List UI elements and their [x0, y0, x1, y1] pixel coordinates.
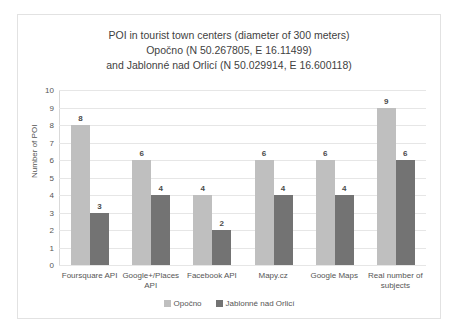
bar[interactable]: 9 — [377, 108, 396, 266]
legend-swatch — [164, 300, 171, 307]
y-axis-tick-label: 9 — [50, 103, 54, 112]
plot-area: 012345678910 83Foursquare API64Google+/P… — [59, 90, 426, 265]
chart-title-line-1: POI in tourist town centers (diameter of… — [18, 28, 440, 43]
bar-group: 83Foursquare API — [59, 90, 120, 265]
bar[interactable]: 8 — [71, 125, 90, 265]
bar-value-label: 6 — [403, 149, 407, 158]
bar[interactable]: 4 — [193, 195, 212, 265]
legend-label: Opočno — [174, 299, 202, 308]
bar-group: 42Facebook API — [181, 90, 242, 265]
bar-value-label: 6 — [139, 149, 143, 158]
legend-swatch — [216, 300, 223, 307]
x-axis-category-label: Google Maps — [302, 271, 366, 281]
bar-value-label: 2 — [220, 219, 224, 228]
bar[interactable]: 4 — [335, 195, 354, 265]
bar-value-label: 6 — [262, 149, 266, 158]
bar-value-label: 8 — [78, 114, 82, 123]
x-axis-category-label: Foursquare API — [58, 271, 122, 281]
x-axis-category-label: Google+/Places API — [119, 271, 183, 291]
legend-label: Jablonné nad Orlicí — [226, 299, 295, 308]
bar-value-label: 3 — [97, 202, 101, 211]
bar-value-label: 6 — [323, 149, 327, 158]
bar-group: 64Google+/Places API — [120, 90, 181, 265]
bar[interactable]: 2 — [212, 230, 231, 265]
bar-group: 64Mapy.cz — [243, 90, 304, 265]
bar-value-label: 4 — [281, 184, 285, 193]
y-axis-tick-label: 3 — [50, 208, 54, 217]
bar[interactable]: 3 — [90, 213, 109, 266]
bar[interactable]: 6 — [255, 160, 274, 265]
y-axis-tick-label: 6 — [50, 156, 54, 165]
bar[interactable]: 4 — [274, 195, 293, 265]
bar[interactable]: 6 — [396, 160, 415, 265]
bar[interactable]: 6 — [132, 160, 151, 265]
y-axis-tick-label: 0 — [50, 261, 54, 270]
bar-value-label: 4 — [158, 184, 162, 193]
bar-value-label: 4 — [342, 184, 346, 193]
y-axis-tick-label: 7 — [50, 138, 54, 147]
y-axis-tick-label: 10 — [45, 86, 54, 95]
legend-item[interactable]: Jablonné nad Orlicí — [216, 299, 295, 308]
y-axis-title: Number of POI — [30, 125, 39, 178]
gridline — [59, 265, 426, 266]
chart-legend: OpočnoJablonné nad Orlicí — [18, 299, 440, 308]
x-axis-category-label: Facebook API — [180, 271, 244, 281]
y-axis-tick-label: 8 — [50, 121, 54, 130]
bar-group: 96Real number of subjects — [365, 90, 426, 265]
bar-value-label: 9 — [384, 97, 388, 106]
x-axis-category-label: Mapy.cz — [241, 271, 305, 281]
x-axis-category-label: Real number of subjects — [363, 271, 427, 291]
bar[interactable]: 4 — [151, 195, 170, 265]
bar[interactable]: 6 — [316, 160, 335, 265]
y-axis-tick-label: 4 — [50, 191, 54, 200]
legend-item[interactable]: Opočno — [164, 299, 202, 308]
chart-title: POI in tourist town centers (diameter of… — [18, 28, 440, 73]
y-axis-tick-label: 1 — [50, 243, 54, 252]
bar-value-label: 4 — [201, 184, 205, 193]
y-axis-tick-label: 2 — [50, 226, 54, 235]
chart-title-line-3: and Jablonné nad Orlicí (N 50.029914, E … — [18, 58, 440, 73]
chart-container: POI in tourist town centers (diameter of… — [17, 14, 441, 319]
y-axis-tick-label: 5 — [50, 173, 54, 182]
bar-group: 64Google Maps — [304, 90, 365, 265]
chart-title-line-2: Opočno (N 50.267805, E 16.11499) — [18, 43, 440, 58]
